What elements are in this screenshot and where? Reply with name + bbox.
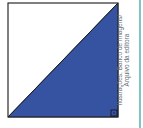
square-diagram: Ilustrações: Banco de imagens/ Arquivo d… [0, 0, 143, 128]
right-angle-dot-icon [113, 112, 114, 113]
credit-line-2: Arquivo da editora [123, 0, 130, 120]
credit-line-1: Ilustrações: Banco de imagens/ [116, 0, 123, 120]
page-edge-line [139, 0, 141, 128]
image-credit: Ilustrações: Banco de imagens/ Arquivo d… [116, 0, 138, 120]
